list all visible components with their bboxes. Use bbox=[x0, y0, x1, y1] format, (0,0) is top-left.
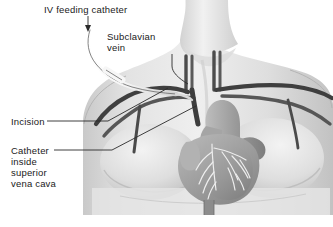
label-catheter-inside-svc: Catheter inside superior vena cava bbox=[11, 145, 56, 189]
label-catheter-line1: Catheter bbox=[11, 145, 56, 156]
label-subclavian-vein-line2: vein bbox=[107, 42, 155, 53]
label-iv-feeding-catheter: IV feeding catheter bbox=[44, 4, 127, 15]
label-catheter-line2: inside bbox=[11, 156, 56, 167]
inferior-vena-cava bbox=[204, 200, 214, 216]
label-subclavian-vein-line1: Subclavian bbox=[107, 31, 155, 42]
neck bbox=[180, 0, 238, 56]
label-subclavian-vein: Subclavian vein bbox=[107, 31, 155, 53]
label-catheter-line4: vena cava bbox=[11, 178, 56, 189]
anatomical-illustration bbox=[0, 0, 333, 227]
label-incision: Incision bbox=[11, 116, 45, 127]
label-catheter-line3: superior bbox=[11, 167, 56, 178]
